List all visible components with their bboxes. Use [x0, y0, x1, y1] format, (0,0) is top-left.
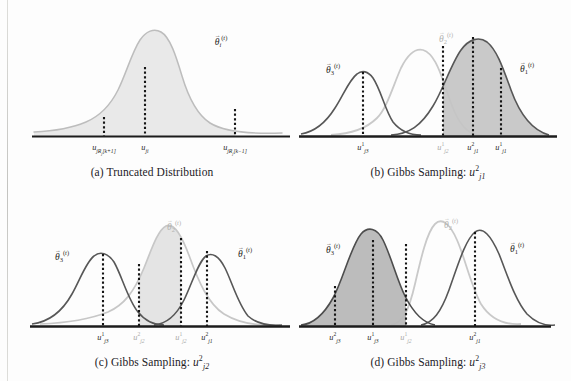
- x-label-u1-j2: u1j2: [437, 143, 448, 152]
- panel-b-curve-theta-3: [301, 72, 421, 135]
- panel-c-caption-text: (c) Gibbs Sampling:: [95, 356, 193, 368]
- panel-d-plot: [295, 196, 561, 332]
- panel-b-caption-text: (b) Gibbs Sampling:: [371, 166, 470, 178]
- x-label-u1-j2: u1j2: [175, 333, 186, 342]
- curve-label-theta-1: →θ1(t): [520, 63, 534, 74]
- curve-label-theta-3: →θ3(t): [326, 64, 340, 75]
- panel-c-caption-var-sub: j2: [203, 362, 209, 371]
- panel-c: u1j3 u2j2 u1j2 u2j1 →θ3(t) →θ2(t) →θ1(t)…: [14, 196, 290, 381]
- x-label-u1-j1: u1j1: [495, 143, 506, 152]
- panel-d-curve-theta-2: [391, 221, 521, 325]
- x-label-u2-j1: u2j1: [467, 143, 478, 152]
- x-label-u-jRj-k-plus-1: ujRj[k+1]: [92, 143, 116, 154]
- curve-label-theta-3: →θ3(t): [55, 251, 69, 262]
- panel-b-caption-var-sub: j1: [479, 172, 485, 181]
- panel-d-x-labels: u2j3 u1j3 u1j2 u2j1: [295, 333, 561, 349]
- panel-a-plot: [14, 6, 290, 142]
- curve-label-theta-i: →θi(t): [215, 36, 228, 47]
- curve-label-theta-1: →θ1(t): [238, 248, 252, 259]
- panel-a-x-labels: ujRj[k+1] uji ujRj[k−1]: [14, 143, 290, 159]
- curve-label-theta-3: →θ3(t): [326, 244, 340, 255]
- panel-a: ujRj[k+1] uji ujRj[k−1] →θi(t) (a) Trunc…: [14, 6, 290, 192]
- x-label-u1-j3: u1j3: [367, 333, 378, 342]
- panel-b-x-labels: u1j3 u1j2 u2j1 u1j1: [295, 143, 561, 159]
- panel-d-caption-var-sub: j3: [479, 362, 485, 371]
- x-label-u2-j2: u2j2: [133, 333, 144, 342]
- x-label-u1-j3: u1j3: [357, 143, 368, 152]
- panel-a-caption: (a) Truncated Distribution: [14, 166, 290, 178]
- panel-d-curve-theta-3: [301, 229, 435, 326]
- panel-b-curve-theta-1: [391, 39, 549, 136]
- panel-b-caption: (b) Gibbs Sampling: u2j1: [295, 166, 561, 178]
- panel-a-curve-theta-i: [34, 30, 282, 136]
- curve-label-theta-2: →θ2(t): [439, 33, 453, 44]
- panel-c-caption: (c) Gibbs Sampling: u2j2: [14, 356, 290, 368]
- x-label-u-ji: uji: [141, 143, 148, 152]
- panel-d-caption-text: (d) Gibbs Sampling:: [371, 356, 470, 368]
- curve-label-theta-2: →θ2(t): [167, 221, 181, 232]
- x-label-u2-j1: u2j1: [201, 333, 212, 342]
- curve-label-theta-1: →θ1(t): [510, 243, 524, 254]
- x-label-u1-j2: u1j2: [400, 333, 411, 342]
- curve-label-theta-2: →θ2(t): [444, 219, 458, 230]
- panel-d-curve-theta-1: [421, 230, 555, 325]
- x-label-u2-j3: u2j3: [329, 333, 340, 342]
- panel-d: u2j3 u1j3 u1j2 u2j1 →θ3(t) →θ2(t) →θ1(t)…: [295, 196, 561, 381]
- x-label-u2-j1: u2j1: [469, 333, 480, 342]
- panel-b: u1j3 u1j2 u2j1 u1j1 →θ3(t) →θ2(t) →θ1(t)…: [295, 6, 561, 192]
- x-label-u-jRj-k-minus-1: ujRj[k−1]: [223, 143, 247, 154]
- panel-c-plot: [14, 196, 290, 332]
- x-label-u1-j3: u1j3: [97, 333, 108, 342]
- page-edge-line: [7, 0, 8, 381]
- panel-c-x-labels: u1j3 u2j2 u1j2 u2j1: [14, 333, 290, 349]
- figure-page: ujRj[k+1] uji ujRj[k−1] →θi(t) (a) Trunc…: [0, 0, 571, 381]
- panel-d-caption: (d) Gibbs Sampling: u2j3: [295, 356, 561, 368]
